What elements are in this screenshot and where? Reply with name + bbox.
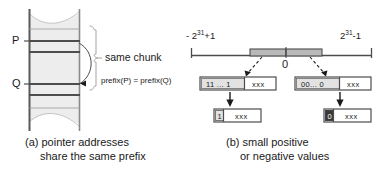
axis-left-bound-prefix: - 2 bbox=[186, 30, 197, 41]
panel-a-caption-line2: share the same prefix bbox=[40, 150, 146, 164]
positive-wide-box-bits: 00... 0 bbox=[301, 80, 324, 89]
memory-column-fill bbox=[29, 14, 80, 123]
negative-range-highlight bbox=[250, 49, 286, 56]
negative-wide-box-bits: 11 ... 1 bbox=[206, 80, 231, 89]
positive-small-box-tag: 0 bbox=[328, 112, 332, 121]
axis-right-bound-suffix: -1 bbox=[353, 30, 361, 41]
positive-small-box-payload: xxx bbox=[345, 112, 358, 121]
pointer-label-q: Q bbox=[12, 77, 21, 89]
positive-range-highlight bbox=[286, 49, 322, 56]
figure-canvas: P Q same chunk prefix(P) = prefix(Q) (a)… bbox=[0, 0, 387, 172]
negative-small-box-payload: xxx bbox=[235, 112, 248, 121]
negative-small-box-tag: 1 bbox=[218, 112, 222, 121]
prefix-equation-label: prefix(P) = prefix(Q) bbox=[101, 76, 171, 85]
axis-right-bound-exponent: 31 bbox=[345, 29, 352, 36]
negative-compress-arrow-head bbox=[226, 100, 233, 108]
axis-zero-label: 0 bbox=[282, 58, 288, 70]
axis-left-bound-label: - 231+1 bbox=[186, 30, 215, 41]
same-chunk-label: same chunk bbox=[105, 51, 162, 63]
panel-b-caption-line2: or negative values bbox=[240, 150, 329, 164]
positive-compress-arrow-head bbox=[336, 100, 343, 108]
memory-column-group bbox=[24, 9, 102, 131]
panel-a-caption-line1: (a) pointer addresses bbox=[25, 136, 129, 150]
panel-b-caption-line1: (b) small positive bbox=[226, 136, 309, 150]
positive-dashed-connector bbox=[310, 57, 325, 74]
axis-left-bound-suffix: +1 bbox=[204, 30, 215, 41]
axis-right-bound-label: 231-1 bbox=[340, 30, 361, 41]
positive-wide-box-payload: xxx bbox=[347, 80, 360, 89]
pointer-label-p: P bbox=[12, 34, 20, 46]
negative-dashed-connector bbox=[247, 57, 262, 74]
prefix-link-curve bbox=[79, 43, 91, 84]
negative-wide-box-payload: xxx bbox=[252, 80, 265, 89]
